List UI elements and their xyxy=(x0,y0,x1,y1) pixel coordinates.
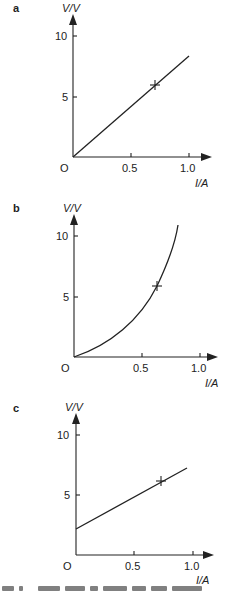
chart-panel-b: b V/V 10 5 O 0.5 1.0 I/A xyxy=(0,195,236,395)
x-tick-label: 1.0 xyxy=(184,561,199,572)
data-line xyxy=(73,56,189,157)
panel-label: b xyxy=(13,203,20,214)
x-axis-label: I/A xyxy=(196,575,209,586)
x-tick-label: 0.5 xyxy=(122,163,137,174)
x-tick-label: 1.0 xyxy=(191,363,206,374)
origin-label: O xyxy=(61,363,70,374)
origin-label: O xyxy=(60,163,69,174)
x-tick-label: 0.5 xyxy=(133,363,148,374)
y-axis-label: V/V xyxy=(62,3,80,14)
chart-c-plot xyxy=(0,395,236,586)
y-axis-label: V/V xyxy=(65,402,83,413)
y-tick-label: 5 xyxy=(63,292,69,303)
chart-a-plot xyxy=(0,0,236,195)
y-tick-label: 10 xyxy=(57,430,69,441)
y-axis-arrow-icon xyxy=(70,214,78,225)
x-axis-arrow-icon xyxy=(201,153,212,161)
y-tick-label: 5 xyxy=(64,490,70,501)
x-axis-label: I/A xyxy=(195,178,208,189)
x-tick-label: 1.0 xyxy=(180,163,195,174)
x-tick-label: 0.5 xyxy=(125,561,140,572)
y-axis-arrow-icon xyxy=(69,14,77,25)
y-tick-label: 10 xyxy=(55,31,67,42)
y-axis-arrow-icon xyxy=(72,413,80,424)
panel-label: c xyxy=(13,403,19,414)
data-curve xyxy=(74,225,178,357)
x-axis-arrow-icon xyxy=(207,353,218,361)
x-axis-label: I/A xyxy=(205,378,218,389)
y-tick-label: 10 xyxy=(56,231,68,242)
origin-label: O xyxy=(63,561,72,572)
y-axis-label: V/V xyxy=(63,203,81,214)
figure-caption-cutoff xyxy=(0,586,236,594)
y-tick-label: 5 xyxy=(62,92,68,103)
x-axis-arrow-icon xyxy=(203,551,214,559)
chart-panel-a: a V/V 10 5 O 0.5 1.0 I/A xyxy=(0,0,236,195)
panel-label: a xyxy=(13,3,19,14)
chart-panel-c: c V/V 10 5 O 0.5 1.0 I/A xyxy=(0,395,236,586)
data-line xyxy=(76,468,187,529)
